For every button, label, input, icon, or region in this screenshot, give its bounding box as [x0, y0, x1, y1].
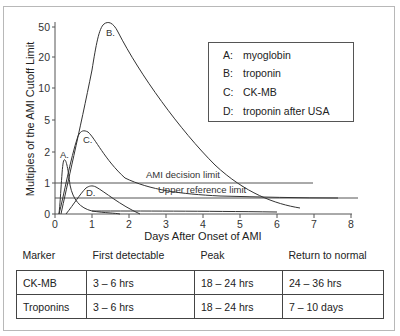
y-tick-0: 0 [44, 208, 50, 220]
y-tick-50: 50 [38, 21, 50, 33]
table-header-row: Marker First detectable Peak Return to n… [17, 246, 384, 271]
table-row: CK-MB 3 – 6 hrs 18 – 24 hrs 24 – 36 hrs [17, 271, 384, 295]
curve-label-d: D. [86, 187, 96, 198]
cell-peak: 18 – 24 hrs [195, 271, 283, 295]
y-tick-5: 5 [44, 114, 50, 126]
x-tick-5: 5 [237, 218, 243, 230]
chart-legend: A:myoglobin B:troponin C:CK-MB D:troponi… [208, 42, 354, 122]
curve-label-c: C. [83, 134, 93, 145]
header-first-detectable: First detectable [87, 246, 195, 271]
x-axis-label: Days After Onset of AMI [55, 230, 351, 242]
cell-first-detectable: 3 – 6 hrs [87, 271, 195, 295]
cell-return-to-normal: 7 – 10 days [283, 295, 384, 319]
upper-reference-limit-label: Upper reference limit [158, 184, 247, 195]
curve-label-b: B. [106, 27, 115, 38]
legend-label: troponin after USA [243, 105, 329, 117]
cell-marker: Troponins [17, 295, 87, 319]
cell-peak: 18 – 24 hrs [195, 295, 283, 319]
x-tick-4: 4 [200, 218, 206, 230]
x-tick-2: 2 [126, 218, 132, 230]
y-tick-20: 20 [38, 51, 50, 63]
x-tick-1: 1 [89, 218, 95, 230]
x-tick-7: 7 [311, 218, 317, 230]
legend-item-d: D:troponin after USA [223, 105, 329, 117]
ami-decision-limit-label: AMI decision limit [146, 169, 220, 180]
curve-tail [92, 211, 277, 212]
legend-item-a: A:myoglobin [223, 49, 291, 61]
table-row: Troponins 3 – 6 hrs 18 – 24 hrs 7 – 10 d… [17, 295, 384, 319]
legend-label: myoglobin [243, 49, 291, 61]
legend-label: troponin [243, 67, 281, 79]
legend-key: C: [223, 86, 243, 98]
header-marker: Marker [17, 246, 87, 271]
curve-d-troponin-after-usa [66, 186, 140, 214]
x-tick-6: 6 [274, 218, 280, 230]
y-axis-label: Multiples of the AMI Cutoff Limit [24, 39, 36, 199]
legend-key: B: [223, 67, 243, 79]
header-return-to-normal: Return to normal [283, 246, 384, 271]
x-tick-0: 0 [52, 218, 58, 230]
legend-key: A: [223, 49, 243, 61]
curve-label-a: A. [60, 149, 69, 160]
x-tick-3: 3 [163, 218, 169, 230]
x-tick-8: 8 [348, 218, 354, 230]
cell-marker: CK-MB [17, 271, 87, 295]
legend-item-b: B:troponin [223, 67, 281, 79]
y-tick-1: 1 [44, 177, 50, 189]
legend-key: D: [223, 105, 243, 117]
cell-first-detectable: 3 – 6 hrs [87, 295, 195, 319]
y-tick-2: 2 [44, 146, 50, 158]
legend-item-c: C:CK-MB [223, 86, 277, 98]
header-peak: Peak [195, 246, 283, 271]
y-tick-10: 10 [38, 82, 50, 94]
legend-label: CK-MB [243, 86, 277, 98]
marker-timing-table: Marker First detectable Peak Return to n… [16, 246, 384, 319]
cell-return-to-normal: 24 – 36 hrs [283, 271, 384, 295]
